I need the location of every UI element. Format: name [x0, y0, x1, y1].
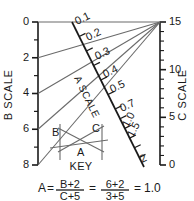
- b-axis-tick-label: 4: [23, 86, 29, 98]
- formula-equals-3: =: [134, 181, 141, 195]
- index-line-b8: [38, 22, 160, 165]
- a-scale-label-3: 0.4: [101, 62, 120, 79]
- c-axis-tick-label: 0: [169, 158, 175, 170]
- formula-fraction-1-numerator: B+2: [60, 178, 80, 190]
- formula-fraction-2-numerator: 6+2: [106, 178, 125, 190]
- b-axis-group: 0 2 4 6 8 B SCALE: [2, 15, 38, 170]
- formula-equals-2: =: [89, 181, 96, 195]
- c-axis-tick-label: 5: [169, 110, 175, 122]
- nomogram-figure: 0 2 4 6 8 B SCALE 15: [0, 0, 194, 201]
- formula-lhs: A: [38, 181, 46, 195]
- formula-result: 1.0: [144, 181, 161, 195]
- formula-fraction-2-denominator: 3+5: [106, 190, 125, 201]
- b-axis-tick-label: 8: [23, 158, 29, 170]
- c-axis-title: C SCALE: [176, 69, 188, 120]
- c-axis-group: 15 10 5 0 C SCALE: [160, 15, 188, 170]
- a-scale-label-0: 0.1: [73, 9, 92, 26]
- b-axis-tick-label: 6: [23, 122, 29, 134]
- a-scale-tick: [134, 145, 140, 148]
- c-axis-tick-label: 15: [169, 15, 181, 27]
- a-scale-title: A SCALE: [72, 74, 102, 119]
- a-scale-label-8: 2: [138, 151, 149, 164]
- formula-group: A = B+2 C+5 = 6+2 3+5 = 1.0: [38, 178, 161, 201]
- b-axis-tick-label: 0: [23, 15, 29, 27]
- formula-equals-1: =: [47, 181, 54, 195]
- key-group: B C A KEY: [50, 122, 108, 172]
- a-scale-tick: [94, 62, 100, 65]
- nomogram-svg: 0 2 4 6 8 B SCALE 15: [0, 0, 194, 201]
- formula-fraction-1-denominator: C+5: [60, 190, 81, 201]
- key-title: KEY: [69, 160, 92, 172]
- b-axis-tick-label: 2: [23, 51, 29, 63]
- key-label-b: B: [52, 126, 59, 138]
- b-axis-title: B SCALE: [2, 70, 14, 121]
- a-scale-label-2: 0.3: [93, 44, 112, 61]
- key-label-a: A: [77, 146, 85, 158]
- key-label-c: C: [92, 122, 100, 134]
- index-lines-group: [38, 22, 160, 165]
